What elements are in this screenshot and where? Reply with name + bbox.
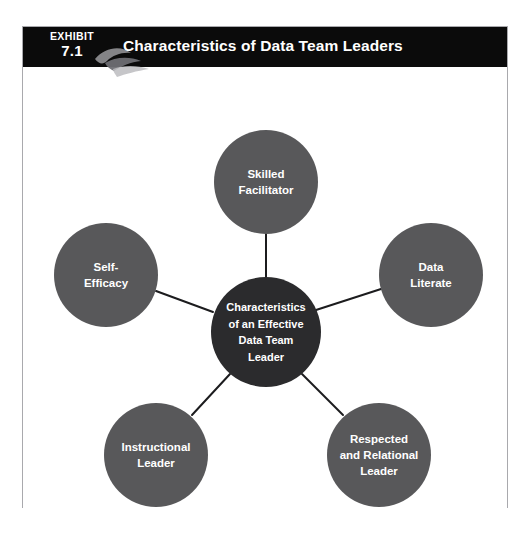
node-self-efficacy[interactable]: Self- Efficacy	[54, 223, 158, 327]
node-data-literate[interactable]: Data Literate	[379, 223, 483, 327]
exhibit-number: 7.1	[35, 43, 109, 59]
exhibit-label-word: EXHIBIT	[35, 31, 109, 42]
page-title: Characteristics of Data Team Leaders	[123, 37, 403, 55]
node-label: Skilled Facilitator	[233, 166, 300, 199]
node-center-characteristics[interactable]: Characteristics of an Effective Data Tea…	[211, 277, 321, 387]
node-label: Self- Efficacy	[78, 259, 134, 292]
node-respected-and-relational-leader[interactable]: Respected and Relational Leader	[327, 403, 431, 507]
connector-center-to-instructional-leader	[192, 374, 230, 415]
node-skilled-facilitator[interactable]: Skilled Facilitator	[214, 130, 318, 234]
node-label: Characteristics of an Effective Data Tea…	[220, 299, 312, 365]
node-label: Instructional Leader	[115, 439, 196, 472]
node-label: Data Literate	[404, 259, 458, 292]
connector-center-to-data-literate	[316, 289, 381, 310]
connector-center-to-self-efficacy	[156, 291, 213, 312]
node-instructional-leader[interactable]: Instructional Leader	[104, 403, 208, 507]
connector-center-to-respected-and-relational-leader	[302, 374, 343, 415]
diagram-canvas: Skilled Facilitator Data Literate Respec…	[23, 67, 507, 508]
exhibit-header-bar: EXHIBIT 7.1 Characteristics of Data Team…	[23, 27, 507, 67]
node-label: Respected and Relational Leader	[334, 431, 425, 480]
exhibit-label: EXHIBIT 7.1	[35, 31, 109, 59]
exhibit-frame: EXHIBIT 7.1 Characteristics of Data Team…	[22, 26, 508, 508]
